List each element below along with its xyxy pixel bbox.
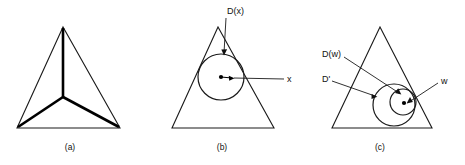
panel-c-dw-label: D(w) <box>322 49 341 59</box>
panel-b-disk-leader-line <box>224 18 226 53</box>
panel-c-triangle-outline <box>332 27 432 128</box>
panel-b-caption: (b) <box>217 142 228 152</box>
panel-b-point-leader-line <box>234 78 284 79</box>
panel-c-caption: (c) <box>375 142 385 152</box>
panel-b-disk-label: D(x) <box>227 6 244 16</box>
panel-b: D(x) x (b) <box>172 6 292 152</box>
panel-a: (a) <box>17 27 120 152</box>
panel-c-point-label: w <box>440 76 448 86</box>
figure-svg: (a) D(x) x (b) <box>0 0 465 165</box>
figure-container: (a) D(x) x (b) <box>0 0 465 165</box>
panel-c-center-point-dot <box>402 101 406 105</box>
panel-b-radius-arrowhead <box>229 76 235 81</box>
panel-a-caption: (a) <box>65 142 76 152</box>
panel-c-dprime-label: D' <box>322 74 330 84</box>
panel-b-point-label: x <box>287 74 292 84</box>
panel-c: D(w) D' w (c) <box>322 27 448 152</box>
panel-b-center-point-dot <box>219 75 223 79</box>
panel-a-triangle-outline <box>17 27 120 128</box>
